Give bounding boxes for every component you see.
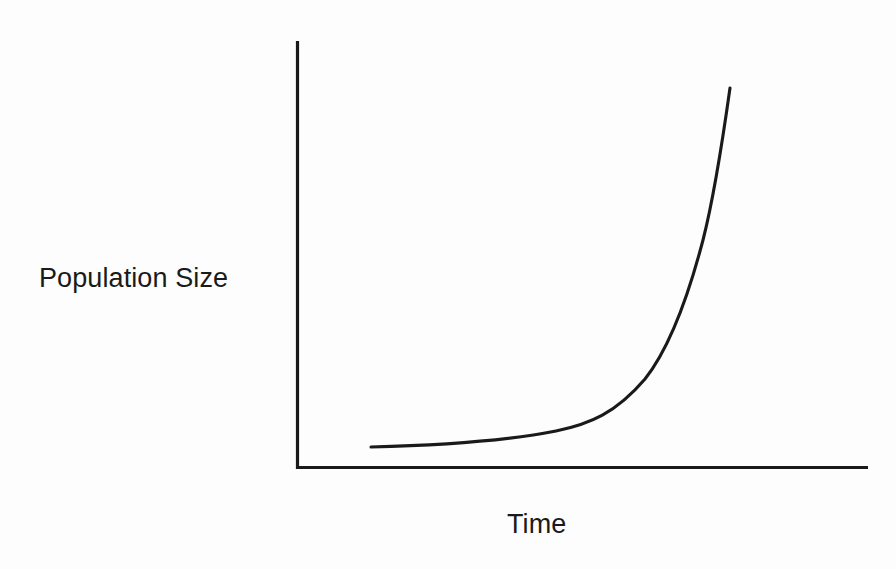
y-axis-label: Population Size (39, 265, 228, 292)
figure-canvas: Population Size Time (0, 0, 896, 569)
axes-group (296, 41, 868, 469)
exponential-growth-curve (371, 88, 730, 447)
data-series-group (371, 88, 730, 447)
x-axis-label: Time (507, 511, 566, 538)
